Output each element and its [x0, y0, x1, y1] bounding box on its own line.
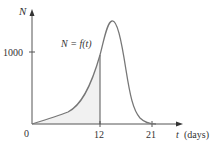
- chart: N 1000 0 12 21 t (days) N = f(t): [0, 0, 218, 147]
- origin-label: 0: [24, 128, 29, 139]
- function-label: N = f(t): [60, 38, 92, 50]
- shaded-area: [32, 55, 100, 124]
- x-tick-label-12: 12: [94, 129, 104, 140]
- y-tick-label-1000: 1000: [3, 47, 23, 58]
- x-axis-unit-label: (days): [184, 129, 209, 141]
- x-tick-label-21: 21: [146, 129, 156, 140]
- x-axis-var-label: t: [176, 129, 179, 140]
- x-axis-arrow-icon: [176, 122, 183, 127]
- y-axis-label: N: [18, 5, 27, 17]
- y-axis-arrow-icon: [30, 9, 35, 16]
